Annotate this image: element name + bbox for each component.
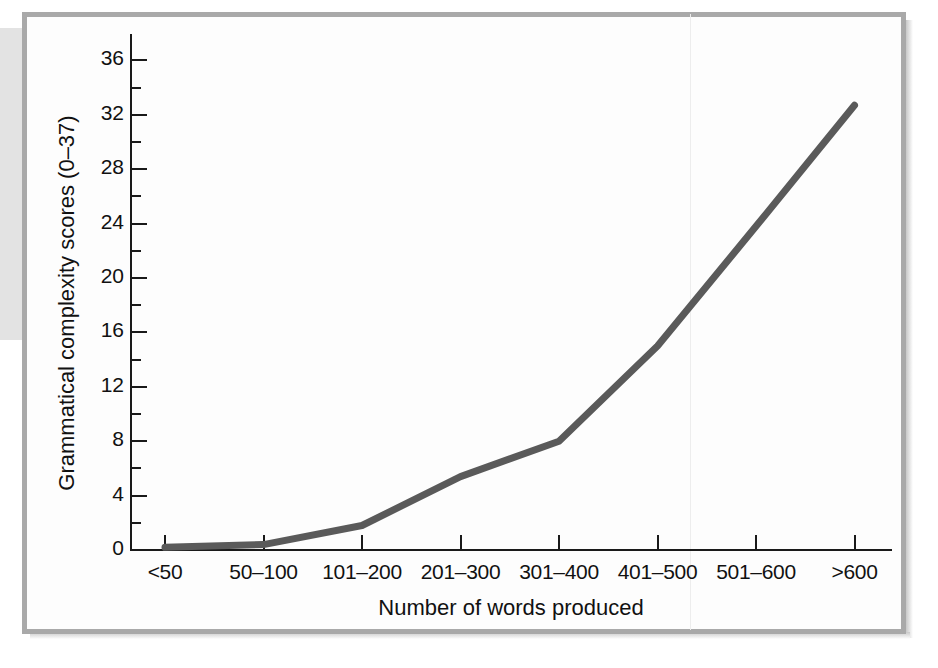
frame-shadow-right (906, 20, 913, 638)
scan-artifact-line (690, 14, 691, 630)
figure-frame (22, 12, 906, 634)
figure-inner-background (27, 17, 901, 629)
